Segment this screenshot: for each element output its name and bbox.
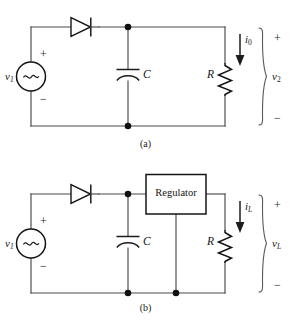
resistor-b-zigzag [219, 230, 232, 263]
output-voltage-label-a: v2 [272, 71, 281, 83]
node-dot-b-top [125, 191, 132, 198]
output-voltage-label-b: vL [272, 238, 281, 250]
capacitor-label-a: C [143, 69, 151, 81]
caption-a: (a) [0, 139, 291, 149]
source-minus-b: − [40, 260, 47, 272]
diode-a-triangle [71, 18, 91, 37]
diode-b-triangle [71, 185, 91, 204]
capacitor-b-bottom-plate [117, 243, 139, 248]
current-arrow-a-head [236, 55, 245, 66]
voltage-brace-b [259, 195, 267, 292]
panel-b-group [17, 175, 267, 297]
source-plus-b: + [40, 215, 47, 227]
current-label-a: i0 [245, 34, 252, 46]
source-label-a: v1 [5, 71, 14, 83]
output-plus-a: + [274, 32, 281, 44]
circuit-figure: v1 + − C R i0 + v2 − (a) v1 + − C Regula… [0, 0, 291, 323]
panel-a-group [17, 18, 267, 130]
source-plus-a: + [40, 48, 47, 60]
node-dot-a-bottom [125, 123, 132, 130]
output-minus-a: − [274, 112, 281, 124]
voltage-brace-a [259, 28, 267, 125]
node-dot-b-bottom-cap [125, 290, 132, 297]
node-dot-a-top [125, 24, 132, 31]
source-minus-a: − [40, 93, 47, 105]
current-label-b: iL [245, 201, 252, 213]
current-arrow-b-head [236, 222, 245, 233]
capacitor-label-b: C [143, 236, 151, 248]
output-plus-b: + [274, 199, 281, 211]
source-label-b: v1 [5, 238, 14, 250]
node-dot-b-bottom-reg [173, 290, 180, 297]
resistor-a-zigzag [219, 63, 232, 96]
resistor-label-a: R [207, 69, 214, 81]
regulator-label: Regulator [146, 188, 206, 199]
caption-b: (b) [0, 303, 291, 313]
capacitor-a-bottom-plate [117, 76, 139, 81]
output-minus-b: − [274, 279, 281, 291]
resistor-label-b: R [207, 236, 214, 248]
